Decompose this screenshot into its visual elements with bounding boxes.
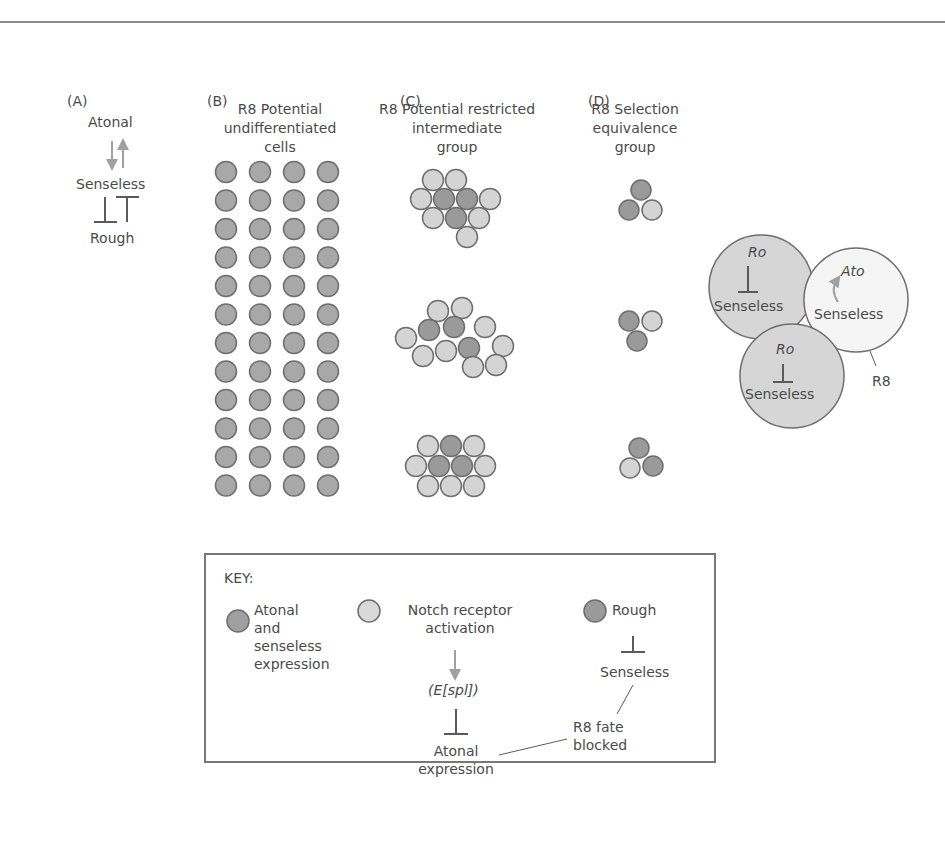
undifferentiated-cell [284,276,305,297]
notch-cell [642,200,662,220]
notch-cell [475,317,496,338]
panel-d-clusters [619,180,663,478]
undifferentiated-cell [216,390,237,411]
undifferentiated-cell [250,333,271,354]
undifferentiated-cell [284,390,305,411]
undifferentiated-cell [318,190,339,211]
rough-cell [629,438,649,458]
key-espl: (E[spl]) [428,681,479,699]
undifferentiated-cell [318,162,339,183]
undifferentiated-cell [318,361,339,382]
key-item2-line: activation [390,619,530,637]
notch-cell [469,208,490,229]
notch-cell [642,311,662,331]
rough-cell [446,208,467,229]
detail-cell-1-ro: Ro [748,243,766,261]
key-atonal-expression-line: expression [410,760,502,778]
detail-cell-3-ro: Ro [776,340,794,358]
detail-r8-label: R8 [872,372,891,390]
undifferentiated-cell [216,162,237,183]
key-item3-label: Rough [612,601,656,619]
undifferentiated-cell [318,276,339,297]
undifferentiated-cell [216,219,237,240]
notch-cell [464,436,485,457]
undifferentiated-cell [284,361,305,382]
rough-cell [457,189,478,210]
undifferentiated-cell [216,361,237,382]
rough-cell [619,200,639,220]
undifferentiated-cell [250,276,271,297]
notch-cell [457,227,478,248]
undifferentiated-cell [318,447,339,468]
key-item2-line: Notch receptor [390,601,530,619]
key-senseless: Senseless [600,663,669,681]
detail-cell-2-ato: Ato [841,262,865,280]
notch-cell [418,436,439,457]
undifferentiated-cell [216,247,237,268]
undifferentiated-cell [216,304,237,325]
undifferentiated-cell [318,333,339,354]
rough-cell [444,317,465,338]
undifferentiated-cell [216,190,237,211]
undifferentiated-cell [250,162,271,183]
undifferentiated-cell [250,190,271,211]
panel-b-cell-grid [216,162,339,497]
undifferentiated-cell [318,390,339,411]
notch-cell [480,189,501,210]
notch-cell [411,189,432,210]
undifferentiated-cell [318,304,339,325]
undifferentiated-cell [284,447,305,468]
undifferentiated-cell [250,219,271,240]
key-item1-line: expression [254,655,330,673]
notch-cell [452,298,473,319]
detail-cell-3-senseless: Senseless [745,385,814,403]
undifferentiated-cell [216,333,237,354]
notch-cell [446,170,467,191]
rough-cell [429,456,450,477]
notch-cell [396,328,417,349]
rough-cell [419,320,440,341]
rough-cell [434,189,455,210]
undifferentiated-cell [318,219,339,240]
notch-cell [418,476,439,497]
detail-cell-2-senseless: Senseless [814,305,883,323]
panel-a-inhibition-icon [94,197,139,222]
rough-cell [459,338,480,359]
key-item2-label: Notch receptor activation [390,601,530,637]
undifferentiated-cell [216,475,237,496]
notch-cell [486,355,507,376]
undifferentiated-cell [284,219,305,240]
undifferentiated-cell [250,447,271,468]
notch-cell [423,208,444,229]
undifferentiated-cell [284,475,305,496]
r8-leader-line [870,351,876,366]
rough-cell [441,436,462,457]
detail-cell-1-senseless: Senseless [714,297,783,315]
undifferentiated-cell [250,361,271,382]
notch-cell [475,456,496,477]
notch-cell [428,301,449,322]
key-item1-label: Atonal and senseless expression [254,601,330,673]
notch-cell [406,456,427,477]
undifferentiated-cell [250,475,271,496]
undifferentiated-cell [284,162,305,183]
undifferentiated-cell [318,475,339,496]
undifferentiated-cell [284,304,305,325]
undifferentiated-cell [318,247,339,268]
rough-cell [619,311,639,331]
undifferentiated-cell [216,276,237,297]
undifferentiated-cell [284,418,305,439]
notch-cell [441,476,462,497]
key-r8-fate-blocked: R8 fate blocked [573,718,627,754]
notch-cell [436,341,457,362]
notch-cell [620,458,640,478]
key-title: KEY: [224,569,253,587]
undifferentiated-cell [250,304,271,325]
notch-cell [463,357,484,378]
undifferentiated-cell [216,418,237,439]
key-atonal-expression: Atonal expression [410,742,502,778]
key-item1-line: senseless [254,637,330,655]
rough-cell [643,456,663,476]
undifferentiated-cell [284,333,305,354]
undifferentiated-cell [318,418,339,439]
